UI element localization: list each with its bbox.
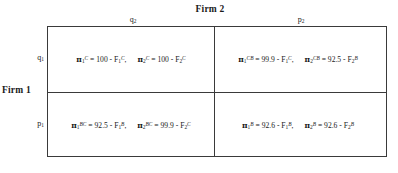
matrix-grid: π1C = 100 - F1C, π2C = 100 - F2C π1CB = … xyxy=(47,26,387,157)
payoff-firm2-p1-p2: π2B = 92.6 - F2B xyxy=(304,122,354,130)
column-player-title: Firm 2 xyxy=(150,4,270,14)
column-header-p2: p2 xyxy=(268,15,334,24)
column-header-q2-sub: 2 xyxy=(134,18,137,24)
fixed-cost-superscript: C xyxy=(187,120,191,126)
payoff-firm1-q1-p2: π1CB = 99.9 - F1C, xyxy=(238,56,293,64)
equals-sign: = xyxy=(86,121,94,130)
row-header-q1-sub: 1 xyxy=(41,56,44,62)
row-header-p1-sub: 1 xyxy=(41,122,44,128)
payoff-matrix-figure: Firm 2 q2 p2 Firm 1 q1 p1 π1C = 100 - F1… xyxy=(0,0,398,173)
trailing-comma: , xyxy=(124,121,126,130)
payoff-firm2-p1-q2: π2BC = 99.9 - F2C xyxy=(137,122,190,130)
cell-p1-q2: π1BC = 92.5 - F1B, π2BC = 99.9 - F2C xyxy=(48,93,214,158)
trailing-comma: , xyxy=(125,55,127,64)
pi-superscript: CB xyxy=(313,54,320,60)
row-header-p1: p1 xyxy=(24,119,44,128)
payoff-pair-p1-q2: π1BC = 92.5 - F1B, π2BC = 99.9 - F2C xyxy=(71,122,190,130)
cell-q1-q2: π1C = 100 - F1C, π2C = 100 - F2C xyxy=(48,27,214,92)
constant-value: 100 xyxy=(157,55,168,64)
equals-sign: = xyxy=(316,121,324,130)
column-header-p2-sub: 2 xyxy=(302,18,305,24)
payoff-firm1-p1-q2: π1BC = 92.5 - F1B, xyxy=(71,122,126,130)
payoff-pair-p1-p2: π1B = 92.6 - F1B, π2B = 92.6 - F2B xyxy=(242,122,354,130)
payoff-firm1-p1-p2: π1B = 92.6 - F1B, xyxy=(242,122,293,130)
fixed-cost-superscript: B xyxy=(354,54,357,60)
fixed-cost-superscript: C xyxy=(182,54,186,60)
equals-sign: = xyxy=(152,121,160,130)
payoff-pair-q1-p2: π1CB = 99.9 - F1C, π2CB = 92.5 - F2B xyxy=(238,56,357,64)
constant-value: 92.6 xyxy=(324,121,337,130)
payoff-firm1-q1-q2: π1C = 100 - F1C, xyxy=(76,56,126,64)
constant-value: 99.9 xyxy=(262,55,275,64)
payoff-firm2-q1-q2: π2C = 100 - F2C xyxy=(137,56,185,64)
constant-value: 100 xyxy=(96,55,107,64)
cell-q1-p2: π1CB = 99.9 - F1C, π2CB = 92.5 - F2B xyxy=(215,27,381,92)
payoff-firm2-q1-p2: π2CB = 92.5 - F2B xyxy=(305,56,358,64)
row-header-q1: q1 xyxy=(24,53,44,62)
fixed-cost-superscript: B xyxy=(351,120,354,126)
constant-value: 92.6 xyxy=(262,121,275,130)
payoff-pair-q1-q2: π1C = 100 - F1C, π2C = 100 - F2C xyxy=(76,56,185,64)
equals-sign: = xyxy=(254,121,262,130)
row-player-title: Firm 1 xyxy=(2,85,46,95)
constant-value: 99.9 xyxy=(161,121,174,130)
equals-sign: = xyxy=(320,55,328,64)
constant-value: 92.5 xyxy=(95,121,108,130)
trailing-comma: , xyxy=(292,55,294,64)
constant-value: 92.5 xyxy=(328,55,341,64)
equals-sign: = xyxy=(253,55,261,64)
column-header-q2: q2 xyxy=(100,15,166,24)
trailing-comma: , xyxy=(292,121,294,130)
cell-p1-p2: π1B = 92.6 - F1B, π2B = 92.6 - F2B xyxy=(215,93,381,158)
